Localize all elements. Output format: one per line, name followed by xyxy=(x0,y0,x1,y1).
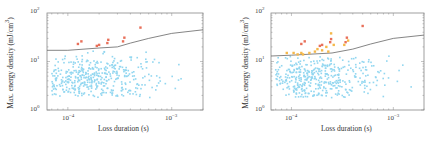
y-axis-label: Max. energy density (mJ/cm3) xyxy=(2,8,12,118)
chart-panel-left: Max. energy density (mJ/cm3) 102 101 100… xyxy=(0,0,219,143)
y-tick-1: 100 xyxy=(30,104,40,113)
chart-panel-right: Max. energy density (mJ/cm3) 102 101 100… xyxy=(219,0,438,143)
y-axis-label-text: Max. energy density (mJ/cm xyxy=(241,23,250,109)
scatter-series-below-threshold xyxy=(51,50,182,98)
plot-frame xyxy=(271,13,424,110)
x-tick-1e-4: 10−4 xyxy=(285,113,297,122)
x-axis-label: Loss duration (s) xyxy=(321,124,372,133)
scatter-series-above-threshold xyxy=(77,26,142,47)
x-axis-label: Loss duration (s) xyxy=(98,124,149,133)
y-axis-label-sup: 3 xyxy=(3,20,10,23)
x-tick-1e-3: 10−3 xyxy=(165,113,177,122)
y-tick-10: 101 xyxy=(30,55,40,64)
scatter-series-above-threshold xyxy=(300,25,364,47)
y-axis-label-end: ) xyxy=(6,17,15,20)
scatter-series-below-threshold xyxy=(275,55,412,98)
x-tick-1e-4: 10−4 xyxy=(62,113,74,122)
scatter-plot-right xyxy=(219,0,438,143)
y-axis-label-end: ) xyxy=(241,17,250,20)
y-axis-label-text: Max. energy density (mJ/cm xyxy=(6,23,15,109)
y-tick-100: 102 xyxy=(255,6,265,15)
scatter-plot-left xyxy=(0,0,219,143)
axis-ticks xyxy=(271,13,424,110)
x-tick-1e-3: 10−3 xyxy=(387,113,399,122)
y-tick-1: 100 xyxy=(255,104,265,113)
scatter-series-above-threshold xyxy=(286,32,350,55)
y-tick-100: 102 xyxy=(30,6,40,15)
y-axis-label: Max. energy density (mJ/cm3) xyxy=(237,8,247,118)
threshold-line xyxy=(47,30,203,51)
y-axis-label-sup: 3 xyxy=(238,20,245,23)
y-tick-10: 101 xyxy=(255,55,265,64)
